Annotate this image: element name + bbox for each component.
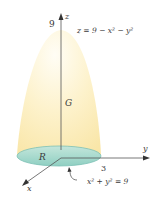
boundary-pointer-arrow: [70, 171, 77, 180]
y-axis-label: y: [142, 144, 148, 153]
z-axis-arrow-icon: [59, 13, 64, 20]
region-R-label: R: [38, 152, 46, 162]
x-axis-label: x: [27, 184, 32, 193]
paraboloid-diagram: z 9 z = 9 − x² − y² G R y 3 x x² + y² = …: [0, 0, 158, 200]
boundary-equation: x² + y² = 9: [87, 177, 129, 186]
y-axis-arrow-icon: [143, 156, 150, 161]
z-tick-label: 9: [49, 19, 55, 29]
pointer-arrowhead-icon: [68, 167, 72, 172]
y-tick-label: 3: [101, 164, 106, 173]
z-axis-label: z: [64, 12, 70, 21]
region-G-label: G: [65, 98, 72, 108]
base-region-ellipse: [17, 146, 101, 166]
paraboloid-solid: [17, 30, 101, 155]
surface-equation: z = 9 − x² − y²: [76, 26, 133, 35]
